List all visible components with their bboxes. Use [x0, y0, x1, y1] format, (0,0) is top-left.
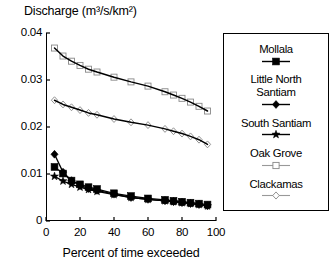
- legend-marker-open-square-icon: [224, 160, 328, 171]
- x-tick-label: 100: [201, 227, 231, 239]
- x-axis-title: Percent of time exceeded: [36, 246, 226, 260]
- x-tick-label: 80: [167, 227, 197, 239]
- legend-entry-clackamas[interactable]: Clackamas: [224, 178, 328, 202]
- y-tick-label: 0.04: [0, 27, 42, 39]
- legend-entry-little-north-santiam[interactable]: Little North Santiam: [224, 73, 328, 109]
- legend-marker-filled-star-icon: [224, 129, 328, 140]
- legend-label: South Santiam: [224, 117, 328, 130]
- chart-legend: MollalaLittle North SantiamSouth Santiam…: [223, 33, 329, 211]
- y-tick-label: 0: [0, 215, 42, 227]
- y-tick-label: 0.01: [0, 168, 42, 180]
- legend-entry-mollala[interactable]: Mollala: [224, 43, 328, 67]
- x-tick-label: 20: [65, 227, 95, 239]
- legend-marker-open-diamond-icon: [224, 190, 328, 201]
- legend-label: Clackamas: [224, 178, 328, 191]
- series-clackamas: [51, 97, 210, 148]
- series-oak-grove: [52, 45, 211, 114]
- chart-figure: Discharge (m³/s/km²) 00.010.020.030.04 0…: [0, 0, 336, 269]
- y-tick-label: 0.02: [0, 121, 42, 133]
- data-series-layer: [50, 45, 211, 210]
- x-tick-label: 0: [31, 227, 61, 239]
- legend-entry-south-santiam[interactable]: South Santiam: [224, 117, 328, 141]
- legend-label: Oak Grove: [224, 147, 328, 160]
- x-tick-label: 40: [99, 227, 129, 239]
- legend-marker-filled-diamond-icon: [224, 99, 328, 110]
- y-tick-label: 0.03: [0, 74, 42, 86]
- legend-label: Mollala: [224, 43, 328, 56]
- legend-label: Little North Santiam: [224, 73, 328, 98]
- legend-marker-filled-square-icon: [224, 56, 328, 67]
- x-tick-label: 60: [133, 227, 163, 239]
- legend-entry-oak-grove[interactable]: Oak Grove: [224, 147, 328, 171]
